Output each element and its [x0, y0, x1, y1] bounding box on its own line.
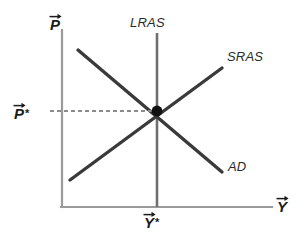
x-axis-label: Y [277, 196, 287, 215]
equilibrium-dot [152, 106, 163, 117]
x-axis-label-vector: Y [277, 196, 287, 214]
ad-as-diagram: P Y P * [0, 0, 306, 244]
equilibrium-output-vector: Y * [144, 212, 159, 230]
y-axis-label-vector: P [50, 14, 60, 32]
ad-curve-label: AD [228, 160, 246, 173]
y-axis-label: P [50, 14, 60, 33]
lras-curve-label: LRAS [130, 16, 165, 29]
vector-arrow-icon [143, 211, 156, 217]
sras-curve-label: SRAS [227, 50, 263, 63]
equilibrium-price-label: P * [14, 103, 29, 122]
vector-arrow-icon [49, 13, 62, 19]
diagram-canvas [0, 0, 306, 244]
vector-arrow-icon [276, 195, 289, 201]
equilibrium-price-star: * [25, 108, 29, 119]
sras-curve [70, 68, 222, 180]
equilibrium-output-star: * [155, 217, 159, 228]
equilibrium-price-vector: P * [14, 103, 29, 121]
equilibrium-output-label: Y * [144, 212, 159, 231]
vector-arrow-icon [13, 102, 26, 108]
